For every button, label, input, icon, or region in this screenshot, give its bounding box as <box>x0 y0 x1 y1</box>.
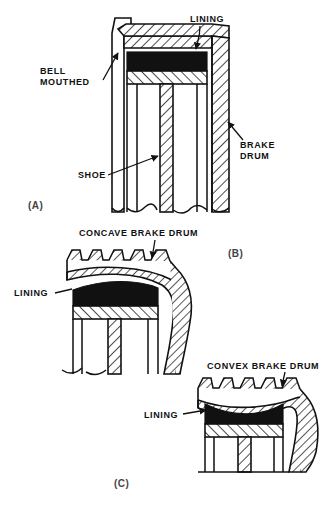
shoe-web-a <box>160 84 173 212</box>
bell-mouthed-label-line1: BELL <box>40 66 66 76</box>
brake-drum-label-line2: DRUM <box>240 151 269 161</box>
shoe-table-c <box>205 424 283 437</box>
panel-key-b: (B) <box>228 248 243 259</box>
lining-label-b: LINING <box>14 288 48 298</box>
panel-key-c: (C) <box>114 478 129 489</box>
brake-drum-wear-figure: LINING BELL MOUTHED BRAKE DRUM SHOE (A) <box>0 0 334 519</box>
lining-label-c: LINING <box>144 410 178 420</box>
shoe-web-b <box>108 319 121 374</box>
shoe-web-c <box>238 437 251 472</box>
concave-brake-drum-label: CONCAVE BRAKE DRUM <box>79 228 198 238</box>
lining-block-a <box>127 52 207 71</box>
shoe-table-b <box>73 306 158 319</box>
panel-key-a: (A) <box>28 200 43 211</box>
shoe-label: SHOE <box>78 170 106 180</box>
bell-mouthed-label-line2: MOUTHED <box>40 77 90 87</box>
brake-drum-label-line1: BRAKE <box>240 140 275 150</box>
lining-label-a: LINING <box>190 14 224 24</box>
convex-brake-drum-label: CONVEX BRAKE DRUM <box>207 361 319 371</box>
shoe-table-a <box>127 71 207 84</box>
drum-right-wall <box>212 36 229 212</box>
